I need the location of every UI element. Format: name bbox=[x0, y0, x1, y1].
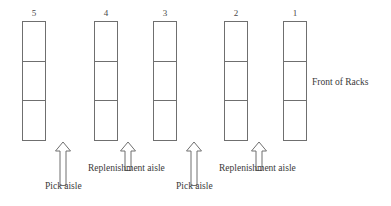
rack-cell bbox=[225, 101, 247, 140]
rack-cell bbox=[95, 22, 117, 62]
rack-cell bbox=[225, 22, 247, 62]
rack-number-label: 5 bbox=[22, 8, 46, 18]
rack-number-label: 4 bbox=[94, 8, 118, 18]
rack-number-label: 3 bbox=[153, 8, 177, 18]
rack-cell bbox=[284, 101, 306, 140]
aisle-label-pick: Pick aisle bbox=[176, 181, 213, 192]
rack-cell bbox=[154, 22, 176, 62]
rack-cell bbox=[154, 101, 176, 140]
rack-column bbox=[22, 21, 46, 141]
rack-cell bbox=[154, 62, 176, 102]
aisle-label-replenishment: Replenishment aisle bbox=[88, 163, 165, 174]
aisle-label-replenishment: Replenishment aisle bbox=[219, 163, 296, 174]
rack-column bbox=[283, 21, 307, 141]
rack-number-label: 1 bbox=[283, 8, 307, 18]
rack-column bbox=[224, 21, 248, 141]
rack-cell bbox=[95, 62, 117, 102]
up-arrow-icon bbox=[55, 142, 71, 186]
rack-cell bbox=[23, 62, 45, 102]
rack-layout-diagram: 5 4 3 2 1 Pick aisle Re bbox=[0, 0, 391, 206]
rack-number-label: 2 bbox=[224, 8, 248, 18]
aisle-label-pick: Pick aisle bbox=[45, 181, 82, 192]
front-of-racks-label: Front of Racks bbox=[312, 77, 368, 88]
rack-cell bbox=[284, 22, 306, 62]
rack-cell bbox=[225, 62, 247, 102]
rack-column bbox=[153, 21, 177, 141]
rack-cell bbox=[23, 101, 45, 140]
rack-cell bbox=[284, 62, 306, 102]
rack-cell bbox=[23, 22, 45, 62]
rack-column bbox=[94, 21, 118, 141]
up-arrow-icon bbox=[186, 142, 202, 186]
rack-cell bbox=[95, 101, 117, 140]
